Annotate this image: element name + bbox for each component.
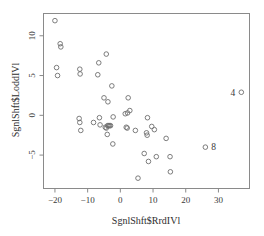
y-tick-label: −5 [27,150,37,160]
chart-canvas: −20−100102030 −50510 48 SgnlShft$RrdIVl … [0,0,264,236]
x-tick-label: 30 [214,195,224,205]
x-tick-label: 10 [149,195,159,205]
y-tick-label: 10 [27,31,37,41]
scatter-plot-figure: −20−100102030 −50510 48 SgnlShft$RrdIVl … [0,0,264,236]
x-tick-label: −20 [48,195,63,205]
data-point-label: 8 [211,142,216,152]
data-point-label: 4 [231,88,236,98]
y-tick-label: 5 [27,73,37,78]
x-tick-label: 20 [181,195,191,205]
y-axis-title: SgnlShft$LoddIVl [10,63,21,138]
x-tick-label: 0 [118,195,123,205]
x-tick-label: −10 [81,195,96,205]
y-tick-label: 0 [27,113,37,118]
x-axis-title: SgnlShft$RrdIVl [112,215,181,226]
